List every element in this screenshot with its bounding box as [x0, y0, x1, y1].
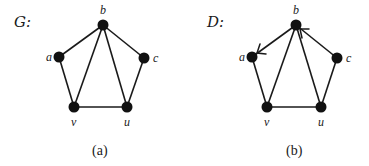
edge-a-v — [59, 57, 74, 107]
node-label-u: u — [318, 115, 324, 129]
node-label-a: a — [239, 50, 245, 64]
edge-b-c — [103, 25, 144, 58]
edge-b-to-a — [252, 25, 296, 57]
graph-g-edges — [59, 25, 144, 107]
graph-g-title: G: — [14, 13, 31, 31]
node-label-u: u — [124, 115, 130, 129]
node-v — [262, 102, 273, 113]
node-u — [316, 102, 327, 113]
node-label-v: v — [71, 115, 77, 129]
edge-a-v — [252, 57, 267, 107]
node-c — [332, 53, 343, 64]
node-label-a: a — [46, 50, 52, 64]
edge-b-a — [59, 25, 103, 57]
node-label-b: b — [293, 3, 299, 17]
node-a — [247, 52, 258, 63]
caption-a: (a) — [92, 143, 108, 159]
edge-b-u — [103, 25, 127, 107]
node-a — [54, 52, 65, 63]
arrowhead-b-to-a-icon — [257, 44, 266, 54]
node-label-c: c — [346, 51, 352, 65]
edge-c-u — [321, 58, 337, 107]
graph-d: D: b a c v u — [206, 3, 352, 159]
node-c — [139, 53, 150, 64]
node-u — [122, 102, 133, 113]
figure-canvas: G: b a c v u (a) D: — [0, 0, 369, 166]
edge-c-u — [127, 58, 144, 107]
graph-d-nodes — [247, 20, 343, 113]
graph-d-edges — [252, 25, 337, 107]
graph-g: G: b a c v u (a) — [14, 3, 159, 159]
edge-b-u — [296, 25, 321, 107]
graph-d-title: D: — [206, 13, 224, 31]
node-v — [69, 102, 80, 113]
node-b — [98, 20, 109, 31]
graph-g-nodes — [54, 20, 150, 113]
node-label-b: b — [100, 3, 106, 17]
caption-b: (b) — [286, 143, 303, 159]
node-b — [291, 20, 302, 31]
node-label-c: c — [153, 51, 159, 65]
node-label-v: v — [264, 115, 270, 129]
edge-b-v — [267, 25, 296, 107]
edge-b-v — [74, 25, 103, 107]
edge-c-to-b — [296, 25, 337, 58]
